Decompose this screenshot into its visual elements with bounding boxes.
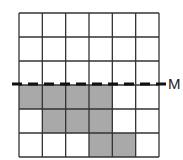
mirror-line — [0, 0, 183, 160]
